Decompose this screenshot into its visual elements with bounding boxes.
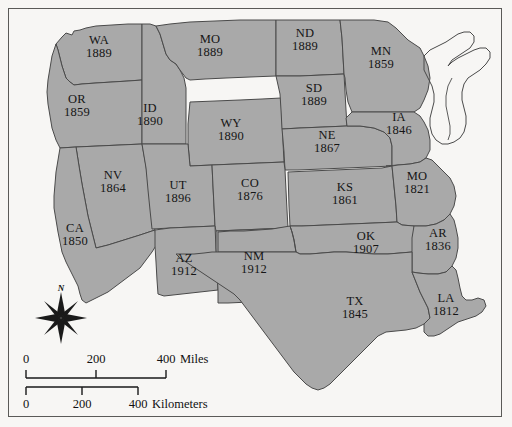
scale-miles-bar: [18, 368, 198, 380]
state-label-or-1: OR1859: [64, 93, 90, 120]
state-year: 1876: [237, 190, 263, 203]
scale-bar-miles: 0 200 400 Miles: [18, 352, 198, 380]
state-abbr: OK: [353, 230, 379, 243]
scale-miles-unit: Miles: [180, 352, 208, 367]
state-label-nm-17: NM1912: [241, 250, 267, 277]
state-abbr: KS: [332, 181, 358, 194]
compass-north-label: N: [30, 283, 92, 293]
scale-miles-tick-2: 400: [157, 352, 176, 367]
state-year: 1889: [197, 46, 223, 59]
state-abbr: MO: [404, 170, 430, 183]
state-year: 1864: [100, 182, 126, 195]
state-abbr: MO: [197, 33, 223, 46]
scale-km-tick-2: 400: [129, 397, 148, 412]
state-label-sd-6: SD1889: [301, 82, 327, 109]
state-label-ne-8: NE1867: [314, 129, 340, 156]
state-abbr: ID: [137, 102, 163, 115]
state-label-mn-7: MN1859: [368, 45, 394, 72]
great-lakes-outline: [424, 32, 490, 144]
map-figure: WA1889OR1859ID1890MO1889WY1890ND1889SD18…: [0, 0, 512, 427]
state-label-ca-15: CA1850: [62, 222, 88, 249]
states-group: [47, 20, 490, 390]
state-label-ia-9: IA1846: [386, 111, 412, 138]
state-abbr: WA: [86, 34, 112, 47]
state-year: 1912: [241, 263, 267, 276]
state-label-ut-11: UT1896: [165, 179, 191, 206]
state-abbr: OR: [64, 93, 90, 106]
state-year: 1889: [292, 40, 318, 53]
state-label-nv-10: NV1864: [100, 169, 126, 196]
state-abbr: MN: [368, 45, 394, 58]
scale-km-tick-0: 0: [23, 397, 29, 412]
state-year: 1850: [62, 235, 88, 248]
state-year: 1836: [425, 240, 451, 253]
state-label-ks-13: KS1861: [332, 181, 358, 208]
state-label-mo-14: MO1821: [404, 170, 430, 197]
state-year: 1889: [301, 95, 327, 108]
state-abbr: CO: [237, 177, 263, 190]
lake-michigan-outline: [446, 78, 452, 140]
compass-group: N: [30, 283, 92, 345]
state-abbr: WY: [218, 117, 244, 130]
state-label-ar-19: AR1836: [425, 227, 451, 254]
state-label-wy-4: WY1890: [218, 117, 244, 144]
state-abbr: AR: [425, 227, 451, 240]
state-year: 1896: [165, 192, 191, 205]
scale-km-bar: [18, 385, 208, 397]
state-abbr: NE: [314, 129, 340, 142]
state-label-co-12: CO1876: [237, 177, 263, 204]
scale-bar-kilometers: 0 200 400 Kilometers: [18, 385, 208, 413]
state-abbr: IA: [386, 111, 412, 124]
state-label-az-16: AZ1912: [171, 252, 197, 279]
state-year: 1867: [314, 142, 340, 155]
state-label-mo-3: MO1889: [197, 33, 223, 60]
state-abbr: ND: [292, 27, 318, 40]
state-abbr: NM: [241, 250, 267, 263]
state-year: 1859: [64, 106, 90, 119]
state-abbr: SD: [301, 82, 327, 95]
state-year: 1889: [86, 47, 112, 60]
state-abbr: NV: [100, 169, 126, 182]
state-year: 1912: [171, 265, 197, 278]
state-year: 1845: [342, 308, 368, 321]
state-year: 1890: [137, 115, 163, 128]
state-year: 1812: [433, 305, 459, 318]
state-year: 1821: [404, 183, 430, 196]
scale-km-labels: 0 200 400 Kilometers: [18, 397, 208, 413]
scale-miles-tick-1: 200: [87, 352, 106, 367]
scale-miles-tick-0: 0: [23, 352, 29, 367]
state-abbr: CA: [62, 222, 88, 235]
state-year: 1859: [368, 58, 394, 71]
state-abbr: TX: [342, 295, 368, 308]
state-label-tx-20: TX1845: [342, 295, 368, 322]
state-label-ok-18: OK1907: [353, 230, 379, 257]
state-label-wa-0: WA1889: [86, 34, 112, 61]
state-label-id-2: ID1890: [137, 102, 163, 129]
state-label-nd-5: ND1889: [292, 27, 318, 54]
state-label-la-21: LA1812: [433, 292, 459, 319]
state-year: 1907: [353, 243, 379, 256]
state-shape-tx: [176, 252, 430, 390]
scale-km-tick-1: 200: [73, 397, 92, 412]
state-abbr: LA: [433, 292, 459, 305]
state-abbr: UT: [165, 179, 191, 192]
state-abbr: AZ: [171, 252, 197, 265]
scale-km-unit: Kilometers: [152, 397, 208, 412]
state-year: 1846: [386, 124, 412, 137]
state-year: 1890: [218, 130, 244, 143]
state-year: 1861: [332, 194, 358, 207]
scale-miles-labels: 0 200 400 Miles: [18, 352, 198, 368]
